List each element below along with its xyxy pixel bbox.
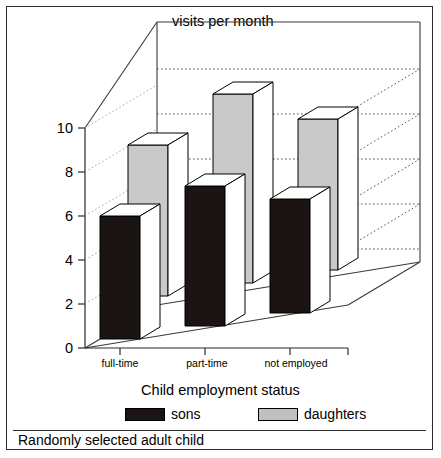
bar-sons-not-employed: [270, 187, 330, 313]
y-tick-6: 6: [65, 208, 73, 224]
footer-divider: [13, 430, 426, 431]
footer-note: Randomly selected adult child: [18, 432, 204, 448]
y-tick-2: 2: [65, 296, 73, 312]
bar-sons-full-time: [100, 204, 160, 339]
y-tick-0: 0: [65, 340, 73, 356]
y-tick-4: 4: [65, 252, 73, 268]
legend-label-sons: sons: [171, 406, 201, 422]
x-axis-tick-labels: full-time part-time not employed: [102, 357, 328, 369]
y-axis-tick-labels: 10 8 6 4 2 0: [57, 120, 73, 356]
y-tick-10: 10: [57, 120, 73, 136]
x-axis-title: Child employment status: [0, 382, 441, 398]
x-label-not-employed: not employed: [264, 357, 327, 369]
legend-swatch-sons: [125, 408, 165, 421]
bar-sons-part-time: [185, 174, 245, 326]
x-axis: [85, 348, 348, 355]
legend-label-daughters: daughters: [304, 406, 366, 422]
chart-legend: sons daughters: [0, 406, 441, 426]
legend-item-daughters: daughters: [258, 406, 366, 422]
legend-swatch-daughters: [258, 408, 298, 421]
legend-item-sons: sons: [125, 406, 201, 422]
x-label-full-time: full-time: [102, 357, 139, 369]
y-tick-8: 8: [65, 164, 73, 180]
y-axis: [78, 128, 85, 348]
x-label-part-time: part-time: [186, 357, 228, 369]
